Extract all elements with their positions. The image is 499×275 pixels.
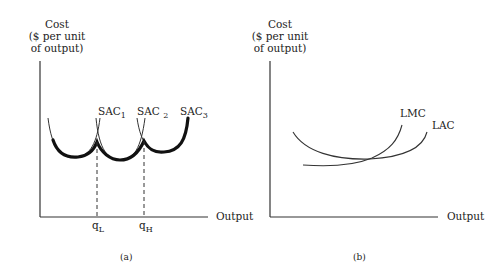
y-label-line-3: of output) (27, 42, 87, 54)
sac3-label: SAC3 (180, 105, 208, 122)
panel-a-y-axis-label: Cost ($ per unit of output) (27, 18, 87, 54)
sac2-label: SAC 2 (137, 105, 168, 122)
qh-label: qH (139, 219, 153, 236)
panel-b-caption: (b) (353, 251, 366, 263)
y-label-line-2: ($ per unit (27, 30, 87, 42)
y-label-line-1: Cost (27, 18, 87, 30)
lac-curve (293, 132, 427, 159)
lac-label: LAC (432, 119, 455, 131)
y-label-line-3: of output) (250, 42, 310, 54)
envelope-curve (53, 118, 188, 160)
sac1-label: SAC1 (98, 105, 126, 122)
y-label-line-1: Cost (250, 18, 310, 30)
panel-a-caption: (a) (120, 251, 132, 263)
lmc-curve (303, 125, 402, 166)
lmc-label: LMC (400, 107, 426, 119)
panel-b-y-axis-label: Cost ($ per unit of output) (250, 18, 310, 54)
panel-a-x-axis-label: Output (216, 210, 253, 222)
panel-b-x-axis-label: Output (447, 210, 484, 222)
y-label-line-2: ($ per unit (250, 30, 310, 42)
ql-label: qL (92, 219, 104, 236)
